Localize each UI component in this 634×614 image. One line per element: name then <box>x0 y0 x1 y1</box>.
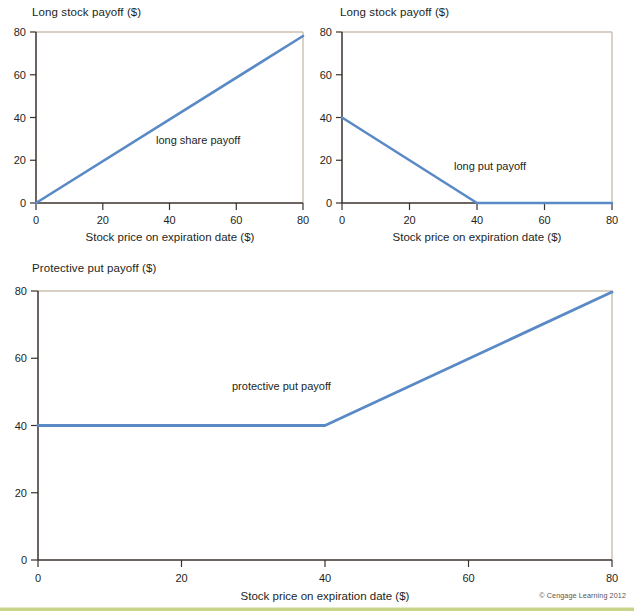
x-ticks-protective-put: 0 20 40 60 80 <box>35 560 618 584</box>
x-tick-label: 40 <box>163 214 175 226</box>
x-tick-label: 0 <box>339 214 345 226</box>
x-tick-label: 60 <box>230 214 242 226</box>
y-ticks-long-put: 80 60 40 20 0 <box>320 26 342 209</box>
copyright-notice: © Cengage Learning 2012 <box>539 591 626 600</box>
x-tick-label: 80 <box>606 572 618 584</box>
series-annotation-long-put-payoff: long put payoff <box>454 160 527 172</box>
x-ticks-long-stock: 0 20 40 60 80 <box>33 203 309 226</box>
series-line-long-share-payoff <box>36 36 303 203</box>
y-tick-label: 60 <box>15 352 27 364</box>
y-tick-label: 0 <box>21 554 27 566</box>
y-tick-label: 80 <box>14 26 26 38</box>
x-axis-title-long-put: Stock price on expiration date ($) <box>393 231 562 243</box>
plot-area-protective-put: 80 60 40 20 0 0 20 40 60 80 protective <box>0 255 634 600</box>
y-tick-label: 80 <box>15 285 27 297</box>
series-annotation-long-share-payoff: long share payoff <box>156 134 241 146</box>
x-tick-label: 40 <box>471 214 483 226</box>
x-tick-label: 20 <box>97 214 109 226</box>
x-tick-label: 20 <box>403 214 415 226</box>
y-tick-label: 60 <box>14 69 26 81</box>
x-tick-label: 40 <box>319 572 331 584</box>
x-axis-title-protective-put: Stock price on expiration date ($) <box>241 590 410 602</box>
y-tick-label: 20 <box>15 487 27 499</box>
x-ticks-long-put: 0 20 40 60 80 <box>339 203 618 226</box>
y-ticks-protective-put: 80 60 40 20 0 <box>15 285 38 566</box>
y-tick-label: 40 <box>320 112 332 124</box>
x-tick-label: 80 <box>606 214 618 226</box>
y-tick-label: 0 <box>326 197 332 209</box>
y-tick-label: 60 <box>320 69 332 81</box>
y-ticks-long-stock: 80 60 40 20 0 <box>14 26 36 209</box>
x-axis-title-long-stock: Stock price on expiration date ($) <box>86 231 255 243</box>
series-line-protective-put-payoff <box>38 292 612 426</box>
x-tick-label: 60 <box>462 572 474 584</box>
y-tick-label: 40 <box>14 112 26 124</box>
plot-area-long-put: 80 60 40 20 0 0 20 40 60 80 long put pa <box>314 0 634 250</box>
x-tick-label: 0 <box>33 214 39 226</box>
y-tick-label: 20 <box>14 154 26 166</box>
y-tick-label: 40 <box>15 420 27 432</box>
footer-rule <box>0 608 634 611</box>
y-tick-label: 20 <box>320 154 332 166</box>
x-tick-label: 0 <box>35 572 41 584</box>
y-tick-label: 0 <box>20 197 26 209</box>
plot-area-long-stock: 80 60 40 20 0 0 20 40 60 80 long <box>0 0 314 250</box>
x-tick-label: 20 <box>175 572 187 584</box>
x-tick-label: 60 <box>538 214 550 226</box>
chart-panel-long-put: Long stock payoff ($) 80 60 40 20 0 <box>314 0 634 250</box>
payoff-diagrams-figure: Long stock payoff ($) 80 60 40 20 0 <box>0 0 634 614</box>
chart-panel-long-stock: Long stock payoff ($) 80 60 40 20 0 <box>0 0 314 250</box>
series-annotation-protective-put-payoff: protective put payoff <box>232 380 332 392</box>
y-tick-label: 80 <box>320 26 332 38</box>
chart-panel-protective-put: Protective put payoff ($) 80 60 40 20 0 <box>0 255 634 600</box>
x-tick-label: 80 <box>297 214 309 226</box>
